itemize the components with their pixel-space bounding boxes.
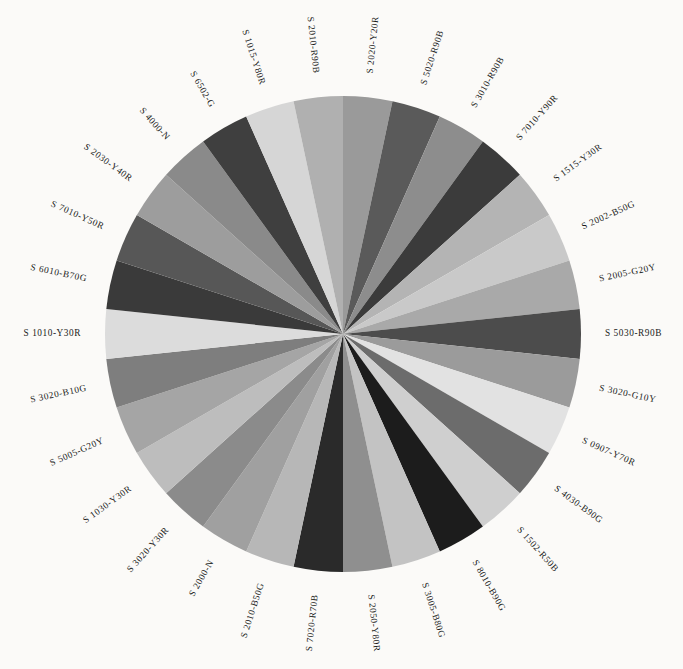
pie-slice-label: S 1010-Y30R <box>24 328 82 338</box>
pie-slice-label: S 3005-B80G <box>420 581 447 639</box>
pie-slice-label: S 8010-B90G <box>470 558 507 613</box>
pie-slice-label: S 2010-R90B <box>306 16 322 74</box>
pie-slice-label: S 7020-R70B <box>304 594 320 652</box>
pie-slice-label: S 6010-B70G <box>30 262 88 284</box>
pie-slice-label: S 7010-Y90R <box>514 93 560 143</box>
pie-slice-label: S 5005-G20Y <box>48 435 105 468</box>
pie-slice-label: S 2002-B50G <box>580 199 637 232</box>
pie-slice-label: S 4000-N <box>138 105 172 142</box>
pie-slice-label: S 2005-G20Y <box>598 262 657 284</box>
pie-chart-figure: S 2020-Y20RS 5020-R90BS 3010-R90BS 7010-… <box>0 0 683 669</box>
pie-slice-label: S 2020-Y20R <box>365 15 381 73</box>
pie-slice-label: S 4030-B90G <box>553 483 605 525</box>
pie-slice-label: S 3010-R90B <box>469 55 506 109</box>
pie-slice-label: S 3020-Y30R <box>125 525 171 575</box>
pie-slice-label: S 2030-Y40R <box>82 141 135 183</box>
pie-slice-label: S 2050-Y80R <box>366 594 382 652</box>
pie-slice-label: S 3020-B10G <box>29 383 87 405</box>
pie-slice-label: S 2010-B50G <box>239 581 266 639</box>
pie-slice-label: S 0907-Y70R <box>581 435 638 468</box>
pie-slice-label: S 1515-Y30R <box>552 141 605 183</box>
pie-slice-label: S 5030-R90B <box>605 328 662 338</box>
pie-slice-label: S 1030-Y30R <box>81 483 134 525</box>
pie-slice-label: S 5020-R90B <box>418 29 445 86</box>
pie-slice-label: S 1015-Y80R <box>240 28 267 86</box>
pie-slice-label: S 6502-G <box>188 69 217 109</box>
pie-chart-svg: S 2020-Y20RS 5020-R90BS 3010-R90BS 7010-… <box>0 0 683 669</box>
pie-slice-label: S 1502-R50B <box>515 525 561 574</box>
pie-slice-label: S 2000-N <box>187 558 216 598</box>
pie-slice-label: S 7010-Y50R <box>49 199 106 232</box>
pie-slices-group <box>105 96 581 572</box>
pie-slice-label: S 3020-G10Y <box>598 383 657 405</box>
